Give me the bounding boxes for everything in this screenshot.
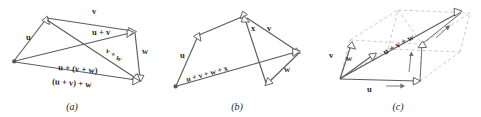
label-u-plus-v-a: u + v: [92, 27, 111, 37]
vector-x-segment-line-b: [199, 16, 244, 35]
translated-u-arrow-head-c: [400, 84, 405, 89]
label-w-c: w: [346, 53, 353, 63]
label-parenthesized-u-plus-v-plus-w-a: (u + v) + w: [52, 76, 93, 89]
label-w-b: w: [284, 64, 291, 74]
label-u-a: u: [26, 32, 31, 42]
translated-v-arrow-head-c: [445, 25, 450, 30]
dashed-bottom-front-right: [420, 52, 460, 81]
dashed-top-left-back: [350, 10, 398, 40]
panel-caption-b: (b): [231, 101, 243, 113]
label-v-c: v: [329, 50, 334, 60]
front-top-right-edge-c: [422, 13, 461, 44]
label-u-plus-parenthesized-v-plus-w-a: u + (v + w): [58, 62, 98, 75]
front-right-vertical-edge-c: [420, 44, 422, 81]
label-u-b: u: [180, 50, 185, 60]
panel-a: u v w u + v v + w u + (v + w) (u + v) + …: [0, 0, 160, 117]
panel-c: v w u u + v + w (c): [310, 0, 481, 117]
label-x-b: x: [251, 23, 256, 33]
front-vertex-arrowhead-c: [418, 41, 427, 48]
vector-w-line: [135, 33, 140, 78]
vector-u-arrowhead-b: [194, 33, 201, 42]
vector-v-arrowhead-c: [347, 42, 355, 50]
vector-u-arrowhead-c: [413, 77, 420, 85]
origin-point-b: [174, 84, 178, 88]
translated-w-arrow-line-c: [409, 54, 411, 72]
label-v-b: v: [267, 23, 272, 33]
label-u-c: u: [367, 84, 372, 94]
label-v-plus-w-a: v + w: [104, 46, 124, 63]
label-w-a: w: [142, 46, 149, 56]
origin-point-a: [12, 59, 16, 63]
vector-addition-figure: u v w u + v v + w u + (v + w) (u + v) + …: [0, 0, 481, 117]
label-v-a: v: [92, 6, 97, 16]
translated-w-arrow-head-c: [409, 51, 414, 56]
panel-caption-a: (a): [66, 101, 78, 113]
label-sum-b: u + v + w + x: [185, 63, 229, 83]
panel-b: u v w x u + v + w + x (b): [155, 0, 320, 117]
panel-caption-c: (c): [392, 101, 404, 113]
vector-u-line-c: [340, 79, 417, 81]
